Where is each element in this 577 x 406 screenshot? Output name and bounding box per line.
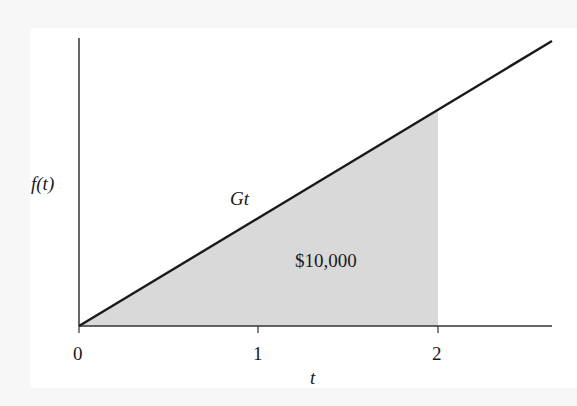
line-label-gt: Gt xyxy=(230,188,249,210)
x-tick-label-2: 2 xyxy=(432,343,442,365)
y-axis-label: f(t) xyxy=(31,173,54,195)
x-tick-label-1: 1 xyxy=(253,343,263,365)
chart-plot xyxy=(0,0,577,406)
x-axis-label: t xyxy=(310,367,315,389)
area-value-label: $10,000 xyxy=(295,250,357,272)
x-tick-label-0: 0 xyxy=(73,343,83,365)
